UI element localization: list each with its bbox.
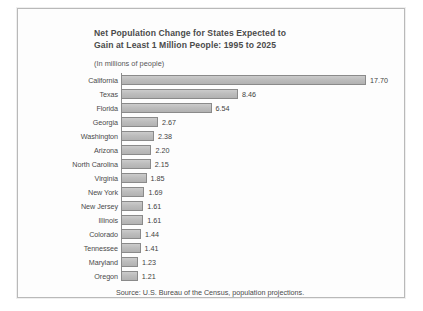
bar-row: Colorado1.44: [59, 227, 404, 241]
bar-track: 1.61: [121, 213, 404, 227]
bar-track: 1.41: [121, 241, 404, 255]
bar-track: 1.69: [121, 185, 404, 199]
bar-track: 2.38: [121, 129, 404, 143]
bar-row: Washington2.38: [59, 129, 404, 143]
bar-value-label: 1.61: [147, 202, 161, 211]
bar: [121, 89, 238, 99]
chart-title: Net Population Change for States Expecte…: [94, 28, 394, 51]
bar-category-label: Georgia: [59, 118, 121, 127]
bar-value-label: 1.23: [142, 258, 156, 267]
bar-value-label: 17.70: [370, 76, 388, 85]
bar-category-label: North Carolina: [59, 160, 121, 169]
bar: [121, 257, 138, 267]
bar: [121, 117, 158, 127]
bar-row: Georgia2.67: [59, 115, 404, 129]
bar-rows: California17.70Texas8.46Florida6.54Georg…: [59, 73, 404, 283]
bar-category-label: Illinois: [59, 216, 121, 225]
bar-row: Illinois1.61: [59, 213, 404, 227]
bar-row: Arizona2.20: [59, 143, 404, 157]
bar-category-label: New Jersey: [59, 202, 121, 211]
bar-category-label: Arizona: [59, 146, 121, 155]
chart-subtitle: (In millions of people): [94, 59, 164, 68]
bar-row: Florida6.54: [59, 101, 404, 115]
bar-value-label: 1.41: [145, 244, 159, 253]
bar-row: New York1.69: [59, 185, 404, 199]
bar: [121, 187, 144, 197]
bar: [121, 173, 147, 183]
bar: [121, 215, 143, 225]
bar-value-label: 1.21: [142, 272, 156, 281]
bar: [121, 159, 151, 169]
bar-value-label: 1.85: [151, 174, 165, 183]
bar-value-label: 2.20: [155, 146, 169, 155]
bar: [121, 131, 154, 141]
bar-row: Texas8.46: [59, 87, 404, 101]
bar-category-label: Washington: [59, 132, 121, 141]
bar-track: 2.20: [121, 143, 404, 157]
bar-track: 1.85: [121, 171, 404, 185]
bar-category-label: Florida: [59, 104, 121, 113]
bar-value-label: 8.46: [242, 90, 256, 99]
bar-row: Tennessee1.41: [59, 241, 404, 255]
bar-track: 6.54: [121, 101, 404, 115]
bar-category-label: Virginia: [59, 174, 121, 183]
bar-row: California17.70: [59, 73, 404, 87]
bar: [121, 75, 366, 85]
bar-track: 2.15: [121, 157, 404, 171]
bar-value-label: 2.67: [162, 118, 176, 127]
bar-category-label: Maryland: [59, 258, 121, 267]
bar-category-label: Tennessee: [59, 244, 121, 253]
bar: [121, 103, 212, 113]
chart-source: Source: U.S. Bureau of the Census, popul…: [116, 288, 304, 297]
bar-track: 8.46: [121, 87, 404, 101]
bar-track: 1.23: [121, 255, 404, 269]
chart-plot-area: California17.70Texas8.46Florida6.54Georg…: [59, 73, 404, 285]
bar-value-label: 2.15: [155, 160, 169, 169]
bar-track: 1.44: [121, 227, 404, 241]
bar-category-label: Oregon: [59, 272, 121, 281]
bar-value-label: 1.44: [145, 230, 159, 239]
bar-row: Oregon1.21: [59, 269, 404, 283]
bar-track: 1.21: [121, 269, 404, 283]
bar: [121, 243, 141, 253]
bar-value-label: 1.61: [147, 216, 161, 225]
bar-track: 17.70: [121, 73, 404, 87]
chart-title-line-2: Gain at Least 1 Million People: 1995 to …: [94, 40, 394, 52]
chart-frame: Net Population Change for States Expecte…: [17, 8, 405, 298]
bar-value-label: 6.54: [216, 104, 230, 113]
chart-title-line-1: Net Population Change for States Expecte…: [94, 28, 394, 40]
bar-row: New Jersey1.61: [59, 199, 404, 213]
bar-value-label: 2.38: [158, 132, 172, 141]
bar: [121, 201, 143, 211]
bar: [121, 229, 141, 239]
bar-track: 1.61: [121, 199, 404, 213]
chart-screenshot: Net Population Change for States Expecte…: [0, 0, 423, 311]
bar-row: Maryland1.23: [59, 255, 404, 269]
bar-row: Virginia1.85: [59, 171, 404, 185]
bar-value-label: 1.69: [148, 188, 162, 197]
bar-category-label: Colorado: [59, 230, 121, 239]
bar-category-label: New York: [59, 188, 121, 197]
bar-track: 2.67: [121, 115, 404, 129]
bar: [121, 271, 138, 281]
bar-category-label: Texas: [59, 90, 121, 99]
bar-row: North Carolina2.15: [59, 157, 404, 171]
bar: [121, 145, 151, 155]
bar-category-label: California: [59, 76, 121, 85]
